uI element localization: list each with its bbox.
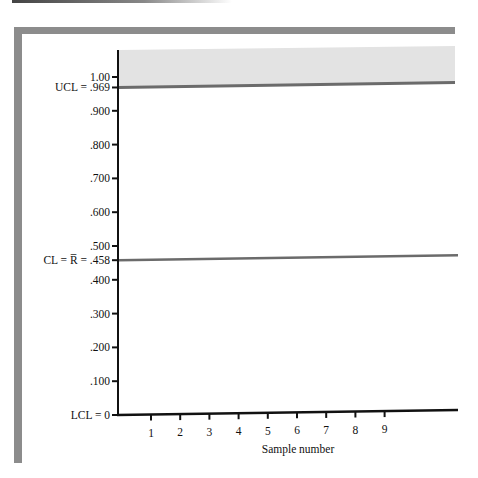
x-tick-label: 6: [294, 424, 300, 436]
r-control-chart: 1.00UCL = .969.900.800.700.600.500CL = R…: [0, 0, 478, 478]
x-tick-label: 7: [323, 424, 329, 436]
y-tick-label: UCL = .969: [55, 81, 110, 93]
y-tick-label: .100: [90, 375, 110, 387]
y-tick-label: .700: [90, 172, 110, 184]
y-tick-label: .300: [90, 308, 110, 320]
y-tick-label: .900: [90, 105, 110, 117]
y-tick-label: CL = R̅ = .458: [43, 254, 110, 266]
y-tick-label: .200: [90, 341, 110, 353]
center-line: [118, 255, 458, 260]
x-axis-title: Sample number: [262, 443, 335, 456]
y-tick-label: .800: [90, 139, 110, 151]
y-tick-label: .500: [90, 240, 110, 252]
x-tick-label: 9: [382, 423, 388, 435]
x-tick-label: 5: [265, 425, 271, 437]
x-tick-label: 3: [207, 426, 213, 438]
x-axis-line: [117, 410, 458, 415]
y-tick-label: .400: [90, 274, 110, 286]
x-tick-label: 2: [177, 426, 183, 438]
x-tick-label: 1: [148, 427, 154, 439]
y-tick-label: LCL = 0: [71, 409, 111, 421]
x-tick-label: 4: [236, 425, 242, 437]
out-of-control-shaded-region: [119, 46, 455, 87]
x-tick-label: 8: [353, 424, 359, 436]
y-tick-label: .600: [90, 206, 110, 218]
